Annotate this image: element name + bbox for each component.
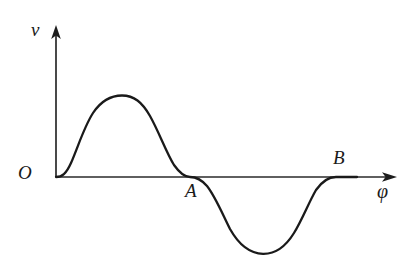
y-axis-label: v xyxy=(31,20,39,39)
point-b-label: B xyxy=(333,148,345,167)
point-a-label: A xyxy=(185,181,197,200)
velocity-curve xyxy=(56,96,357,254)
y-axis-group xyxy=(51,25,61,177)
origin-label: O xyxy=(18,163,32,182)
graph-svg xyxy=(0,0,415,261)
x-axis-label: φ xyxy=(377,181,388,201)
figure-canvas: v φ O A B xyxy=(0,0,415,261)
